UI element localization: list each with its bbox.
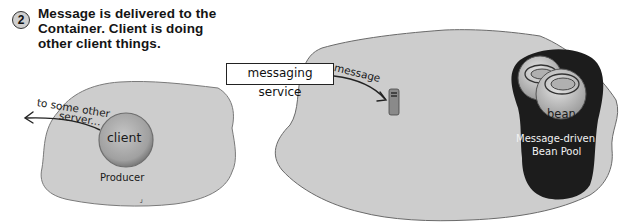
bean-pool-label-1: Message-driven [516, 133, 595, 144]
stray-mark: ᴊ [140, 197, 143, 205]
messaging-service-box: messaging service [226, 63, 334, 85]
queue-destination-icon [389, 89, 399, 115]
step-description: Message is delivered to the Container. C… [38, 6, 228, 51]
bean-pool-label-2: Bean Pool [532, 146, 581, 157]
producer-label: Producer [100, 172, 144, 183]
bean-label: bean [547, 107, 576, 121]
client-label: client [107, 130, 141, 145]
ejb-message-delivery-diagram: ᴊ 2 Message is delivered to the Containe… [0, 0, 629, 223]
step-number-badge: 2 [12, 11, 30, 29]
